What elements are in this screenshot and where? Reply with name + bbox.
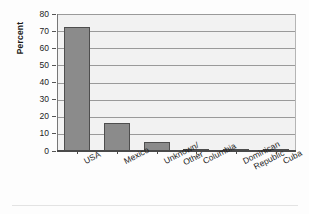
- y-axis-tick-mark: [52, 65, 56, 66]
- y-axis-tick-label: 50: [13, 60, 49, 71]
- x-axis-tick-mark: [276, 151, 277, 154]
- x-axis-ticks: USAMexicoUnknown/OtherColumbiaDominicanR…: [0, 151, 309, 209]
- x-axis-tick-label: Cuba: [281, 148, 304, 166]
- y-axis-tick-label: 60: [13, 43, 49, 54]
- y-axis-tick-label: 10: [13, 128, 49, 139]
- x-axis-tick-mark: [236, 151, 237, 154]
- x-axis-tick-label-line: Cuba: [281, 148, 304, 166]
- x-axis-tick-label: USA: [82, 149, 102, 166]
- y-axis-tick-mark: [52, 14, 56, 15]
- x-axis-tick-mark: [117, 151, 118, 154]
- y-axis-tick-mark: [52, 99, 56, 100]
- y-axis-tick-mark: [52, 82, 56, 83]
- footer-divider: [12, 205, 298, 206]
- y-axis-tick-label: 40: [13, 77, 49, 88]
- y-axis-tick-mark: [52, 116, 56, 117]
- y-axis-tick-label: 80: [13, 9, 49, 20]
- y-axis-tick-mark: [52, 133, 56, 134]
- x-axis-tick-mark: [77, 151, 78, 154]
- x-axis-tick-mark: [196, 151, 197, 154]
- y-axis-tick-label: 20: [13, 111, 49, 122]
- y-axis-tick-mark: [52, 31, 56, 32]
- x-axis-tick-label-line: USA: [82, 149, 102, 166]
- bar-chart-figure: Percent 01020304050607080 USAMexicoUnkno…: [0, 0, 309, 214]
- y-axis-tick-label: 30: [13, 94, 49, 105]
- x-axis-tick-mark: [157, 151, 158, 154]
- y-axis-tick-label: 70: [13, 26, 49, 37]
- y-axis-tick-mark: [52, 48, 56, 49]
